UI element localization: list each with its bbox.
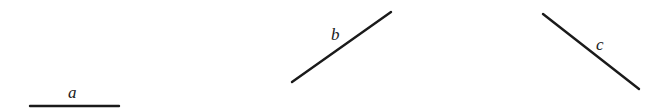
- segment-a: a: [30, 83, 119, 106]
- segment-c-line: [543, 14, 639, 89]
- segment-c: c: [543, 14, 639, 89]
- segment-b-line: [292, 12, 391, 82]
- segment-b: b: [292, 12, 391, 82]
- segment-b-label: b: [331, 25, 340, 44]
- segment-c-label: c: [596, 35, 604, 54]
- segment-a-label: a: [68, 83, 77, 102]
- segments-diagram: a b c: [0, 0, 658, 110]
